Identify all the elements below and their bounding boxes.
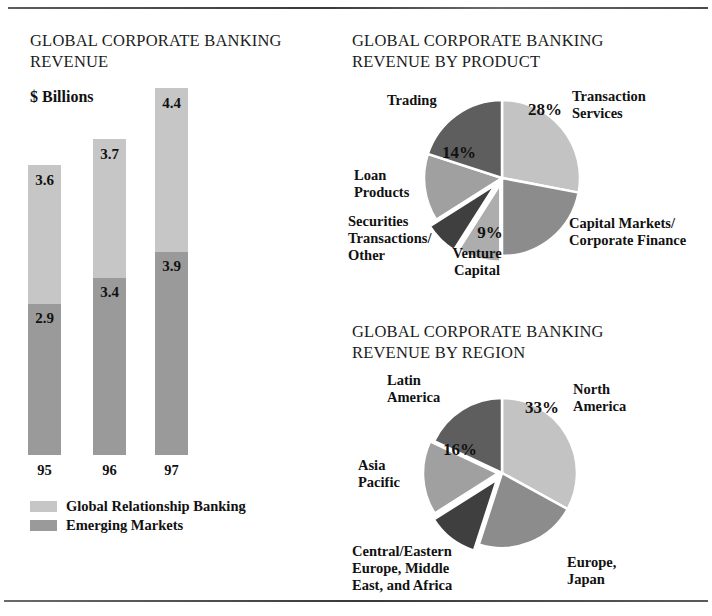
bar-label-96-top: 3.7 <box>93 147 126 162</box>
label-line: Securities <box>348 213 432 230</box>
pie-region-label-asia-pacific: Asia Pacific <box>358 457 400 491</box>
pie-product-pct-venture-capital: 9% <box>477 223 503 242</box>
label-line: Transaction <box>572 88 646 105</box>
label-line: Europe, Middle <box>352 560 452 577</box>
bar-label-96-bottom: 3.4 <box>93 285 126 300</box>
pie-product-title: GLOBAL CORPORATE BANKING REVENUE BY PROD… <box>352 30 652 72</box>
bar-label-95-top: 3.6 <box>28 173 61 188</box>
pie-product-pct-transaction-services: 28% <box>528 100 562 119</box>
label-line: Pacific <box>358 474 400 491</box>
label-line: Europe, <box>567 554 616 571</box>
pie-region-label-latin-america: Latin America <box>387 372 440 406</box>
bar-label-97-bottom: 3.9 <box>155 259 188 274</box>
legend-swatch-light-icon <box>30 501 57 512</box>
pie-region-slices <box>423 398 577 551</box>
pie-product-panel: GLOBAL CORPORATE BANKING REVENUE BY PROD… <box>340 0 712 310</box>
label-line: Corporate Finance <box>569 232 686 249</box>
bar-label-95-bottom: 2.9 <box>28 311 61 326</box>
bar-chart-panel: GLOBAL CORPORATE BANKING REVENUE $ Billi… <box>0 0 340 560</box>
pie-region-pct-asia-pacific: 16% <box>443 440 477 459</box>
legend-label-emerging-markets: Emerging Markets <box>66 517 183 534</box>
label-line: Japan <box>567 571 616 588</box>
label-line: Transactions/ <box>348 230 432 247</box>
bar-x-tick-97: 97 <box>155 462 188 479</box>
label-line: Latin <box>387 372 440 389</box>
bar-column-96[interactable]: 3.7 3.4 <box>93 139 126 455</box>
pie-product-label-securities-transactions-other: Securities Transactions/ Other <box>348 213 432 264</box>
bar-column-97[interactable]: 4.4 3.9 <box>155 88 188 455</box>
label-line: Venture <box>440 245 514 262</box>
figure-canvas: GLOBAL CORPORATE BANKING REVENUE $ Billi… <box>0 0 712 616</box>
legend-swatch-dark-icon <box>30 520 57 531</box>
pie-region-pct-north-america: 33% <box>525 398 559 417</box>
bar-x-tick-96: 96 <box>93 462 126 479</box>
label-line: Asia <box>358 457 400 474</box>
label-line: Capital Markets/ <box>569 215 686 232</box>
bar-label-97-top: 4.4 <box>155 96 188 111</box>
pie-product-label-trading: Trading <box>387 92 437 109</box>
pie-region-panel: GLOBAL CORPORATE BANKING REVENUE BY REGI… <box>340 305 712 605</box>
pie-region-label-ceemea: Central/Eastern Europe, Middle East, and… <box>352 543 452 594</box>
legend-item-global-relationship-banking[interactable]: Global Relationship Banking <box>30 497 246 516</box>
label-line: Other <box>348 247 432 264</box>
label-line: North <box>573 381 626 398</box>
label-line: America <box>387 389 440 406</box>
pie-product-label-transaction-services: Transaction Services <box>572 88 646 122</box>
bar-column-95[interactable]: 3.6 2.9 <box>28 165 61 455</box>
bar-chart-legend: Global Relationship Banking Emerging Mar… <box>30 497 246 535</box>
pie-product-label-venture-capital: Venture Capital <box>440 245 514 279</box>
label-line: Central/Eastern <box>352 543 452 560</box>
pie-product-label-loan-products: Loan Products <box>354 167 409 201</box>
bar-segment-97-emerging-markets[interactable] <box>155 252 188 455</box>
legend-label-global-relationship-banking: Global Relationship Banking <box>66 498 246 515</box>
label-line: Loan <box>354 167 409 184</box>
pie-product-pct-loan-products: 14% <box>442 143 476 162</box>
bar-chart-axis-units: $ Billions <box>30 88 94 106</box>
pie-region-label-europe-japan: Europe, Japan <box>567 554 616 588</box>
pie-region-label-north-america: North America <box>573 381 626 415</box>
bar-x-tick-95: 95 <box>28 462 61 479</box>
pie-region-title: GLOBAL CORPORATE BANKING REVENUE BY REGI… <box>352 321 652 363</box>
label-line: America <box>573 398 626 415</box>
label-line: Capital <box>440 262 514 279</box>
legend-item-emerging-markets[interactable]: Emerging Markets <box>30 516 246 535</box>
bar-segment-95-emerging-markets[interactable] <box>28 304 61 455</box>
label-line: East, and Africa <box>352 577 452 594</box>
bar-chart-title: GLOBAL CORPORATE BANKING REVENUE <box>30 30 300 72</box>
label-line: Services <box>572 105 646 122</box>
pie-product-label-capital-markets: Capital Markets/ Corporate Finance <box>569 215 686 249</box>
bar-segment-96-emerging-markets[interactable] <box>93 278 126 455</box>
label-line: Products <box>354 184 409 201</box>
bar-segment-97-global-relationship-banking[interactable] <box>155 88 188 252</box>
